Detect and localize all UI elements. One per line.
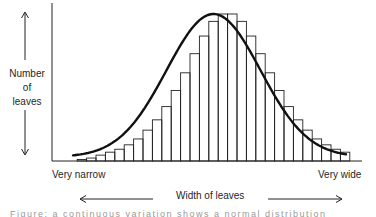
histogram-bar	[134, 139, 143, 161]
histogram-bar	[190, 54, 199, 161]
histogram-bar	[152, 120, 161, 161]
histogram-bar	[87, 158, 96, 161]
x-left-arrow-icon	[80, 196, 153, 203]
histogram-bar	[105, 152, 114, 161]
y-axis-label-line: Number	[2, 67, 52, 81]
x-right-arrow-icon	[268, 196, 342, 203]
histogram-bar	[124, 145, 133, 161]
histogram-bar	[284, 107, 293, 161]
y-up-arrow-icon	[22, 12, 29, 60]
y-axis-label: Number of leaves	[2, 67, 52, 109]
histogram-bar	[162, 107, 171, 161]
histogram-bar	[171, 90, 180, 161]
normal-curve	[73, 14, 346, 155]
x-axis-left-end-label: Very narrow	[52, 169, 105, 181]
histogram-bar	[209, 21, 218, 161]
x-axis-label: Width of leaves	[176, 190, 244, 202]
figure-caption: Figure: a continuous variation shows a n…	[10, 209, 327, 217]
histogram-bar	[115, 149, 124, 161]
y-down-arrow-icon	[22, 110, 29, 155]
histogram-bar	[218, 14, 227, 161]
histogram-bar	[181, 73, 190, 161]
histogram-bar	[77, 160, 86, 161]
histogram-bar	[199, 36, 208, 161]
x-axis-right-end-label: Very wide	[318, 169, 361, 181]
y-axis-label-line: of	[2, 81, 52, 95]
histogram-bar	[96, 155, 105, 161]
histogram-chart	[0, 0, 376, 217]
histogram-bar	[143, 130, 152, 161]
y-axis-label-line: leaves	[2, 95, 52, 109]
histogram-bar	[228, 14, 237, 161]
